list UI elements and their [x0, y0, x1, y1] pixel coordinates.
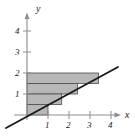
y-tick-label-3: 3 [15, 48, 20, 57]
x-tick-label-2: 2 [66, 121, 71, 130]
plot-svg [0, 0, 135, 137]
y-tick-label-2: 2 [15, 69, 20, 78]
x-tick-label-4: 4 [108, 121, 113, 130]
y-tick-label-1: 1 [15, 90, 20, 99]
riemann-rectangles [27, 73, 98, 115]
riemann-rect-band-2 [27, 94, 62, 105]
y-tick-label-4: 4 [15, 27, 20, 36]
figure-container: y x 1 2 3 4 1 2 3 4 [0, 0, 135, 137]
x-axis-label: x [125, 110, 129, 120]
x-tick-label-1: 1 [45, 121, 50, 130]
y-axis-label: y [36, 4, 40, 14]
x-tick-label-3: 3 [87, 121, 92, 130]
riemann-rect-band-4 [27, 73, 98, 84]
